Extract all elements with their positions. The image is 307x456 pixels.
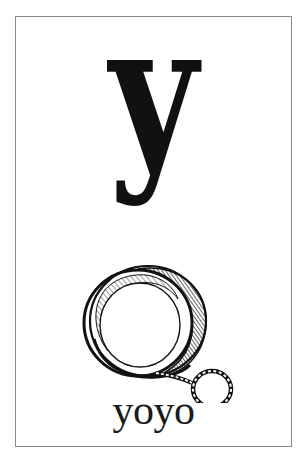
flashcard-word: yoyo xyxy=(16,389,291,431)
yoyo-icon xyxy=(76,243,236,403)
alphabet-letter: y xyxy=(46,0,261,191)
flashcard: y xyxy=(15,16,292,447)
